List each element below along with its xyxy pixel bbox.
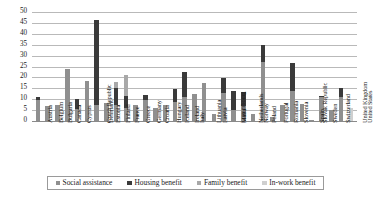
x-axis-label-cell: Romania: [278, 122, 288, 174]
x-axis-label-cell: Finland: [111, 122, 121, 174]
x-axis-label-cell: Malta: [229, 122, 239, 174]
legend-swatch-icon: [197, 181, 202, 186]
legend-item[interactable]: Family benefit: [197, 179, 247, 186]
x-axis-tick-label: France: [134, 107, 140, 124]
x-axis-label-cell: Croatia: [150, 122, 160, 174]
x-axis-label-cell: France: [121, 122, 131, 174]
x-axis-tick-label: United States: [367, 91, 373, 123]
x-axis-tick-label: Iceland: [184, 105, 190, 123]
x-axis-tick-label: Portugal: [283, 103, 289, 123]
x-axis-tick-label: Spain: [319, 109, 325, 123]
bar-column[interactable]: [33, 12, 43, 121]
x-axis-tick-label: Latvia: [222, 108, 228, 123]
x-axis-labels: AustriaBelgiumBulgariaCanadaCyprusCzech …: [32, 122, 357, 174]
bar-segment[interactable]: [124, 75, 129, 95]
x-axis-tick-label: Canada: [76, 105, 82, 123]
x-axis-label-cell: Belgium: [43, 122, 53, 174]
bar-column[interactable]: [141, 12, 151, 121]
x-axis-label-cell: Ireland: [180, 122, 190, 174]
x-axis-label-cell: Czech Republic: [82, 122, 92, 174]
x-axis-tick-label: Malta: [241, 109, 247, 123]
x-axis-tick-label: Estonia: [115, 105, 121, 123]
x-axis-tick-label: Bulgaria: [68, 102, 74, 123]
x-axis-tick-label: Cyprus: [86, 105, 92, 123]
x-axis-label-cell: Netherlands: [238, 122, 248, 174]
bar-segment[interactable]: [36, 100, 41, 121]
x-axis-tick-label: Finland: [125, 105, 131, 123]
x-axis-label-cell: Sweden: [317, 122, 327, 174]
legend-label: Social assistance: [63, 179, 113, 186]
x-axis-label-cell: Slovenia: [287, 122, 297, 174]
x-axis-label-cell: United Kingdom: [336, 122, 346, 174]
y-axis-tick-label: 50: [20, 8, 27, 15]
x-axis-label-cell: Norway: [248, 122, 258, 174]
x-axis-label-cell: Italy: [190, 122, 200, 174]
y-axis-tick-label: 25: [20, 63, 27, 70]
x-axis-label-cell: Germany: [141, 122, 151, 174]
bar-stack[interactable]: [251, 114, 256, 121]
bar-segment[interactable]: [339, 88, 344, 98]
bar-segment[interactable]: [251, 114, 256, 121]
x-axis-label-cell: Bulgaria: [53, 122, 63, 174]
x-axis-label-cell: Iceland: [170, 122, 180, 174]
x-axis-label-cell: Portugal: [268, 122, 278, 174]
legend-swatch-icon: [262, 181, 267, 186]
bar-stack[interactable]: [94, 20, 99, 121]
y-axis-tick-label: 35: [20, 41, 27, 48]
x-axis-tick-label: Greece: [144, 106, 150, 123]
x-axis-label-cell: Latvia: [209, 122, 219, 174]
bar-column[interactable]: [92, 12, 102, 121]
x-axis-label-cell: Canada: [62, 122, 72, 174]
y-axis-tick-label: 15: [20, 85, 27, 92]
x-axis-tick-label: Norway: [263, 103, 269, 123]
bar-segment[interactable]: [339, 97, 344, 121]
bar-segment[interactable]: [182, 72, 187, 97]
legend-label: Family benefit: [204, 179, 247, 186]
legend-swatch-icon: [56, 181, 61, 186]
bar-segment[interactable]: [309, 120, 314, 121]
x-axis-label-cell: Austria: [33, 122, 43, 174]
chart-legend: Social assistanceHousing benefitFamily b…: [47, 176, 324, 190]
y-axis-tick-label: 30: [20, 52, 27, 59]
legend-item[interactable]: In-work benefit: [262, 179, 315, 186]
x-axis-label-cell: Greece: [131, 122, 141, 174]
bar-stack[interactable]: [231, 91, 236, 122]
bar-segment[interactable]: [94, 20, 99, 105]
bar-segment[interactable]: [261, 45, 266, 62]
y-axis-tick-label: 20: [20, 74, 27, 81]
bar-stack[interactable]: [339, 88, 344, 121]
bar-stack[interactable]: [36, 97, 41, 121]
x-axis-label-cell: Poland: [258, 122, 268, 174]
legend-item[interactable]: Housing benefit: [127, 179, 181, 186]
x-axis-tick-label: Switzerland: [346, 94, 352, 123]
bar-segment[interactable]: [231, 110, 236, 121]
legend-label: In-work benefit: [269, 179, 315, 186]
bar-column[interactable]: [131, 12, 141, 121]
bar-segment[interactable]: [231, 91, 236, 110]
x-axis-label-cell: Estonia: [101, 122, 111, 174]
bar-segment[interactable]: [94, 105, 99, 121]
x-axis-tick-label: Belgium: [58, 102, 64, 123]
bar-segment[interactable]: [221, 78, 226, 93]
x-axis-tick-label: Slovenia: [303, 102, 309, 123]
x-axis-label-cell: Lithuania: [199, 122, 209, 174]
legend-item[interactable]: Social assistance: [56, 179, 113, 186]
x-axis-label-cell: Luxembourg: [219, 122, 229, 174]
y-axis-tick-label: 45: [20, 19, 27, 26]
y-axis-tick-label: 0: [24, 117, 28, 124]
x-axis-label-cell: Cyprus: [72, 122, 82, 174]
y-axis: 05101520253035404550: [0, 12, 30, 121]
bar-segment[interactable]: [290, 63, 295, 91]
bar-column[interactable]: [229, 12, 239, 121]
bar-column[interactable]: [190, 12, 200, 121]
bar-stack[interactable]: [309, 120, 314, 121]
bar-segment[interactable]: [173, 89, 178, 102]
x-axis-label-cell: Switzerland: [326, 122, 336, 174]
x-axis-tick-label: Hungary: [176, 102, 182, 123]
y-axis-tick-label: 5: [24, 106, 28, 113]
x-axis-label-cell: Denmark: [92, 122, 102, 174]
x-axis-tick-label: Croatia: [164, 105, 170, 123]
bar-column[interactable]: [199, 12, 209, 121]
x-axis-tick-label: Romania: [293, 101, 299, 123]
